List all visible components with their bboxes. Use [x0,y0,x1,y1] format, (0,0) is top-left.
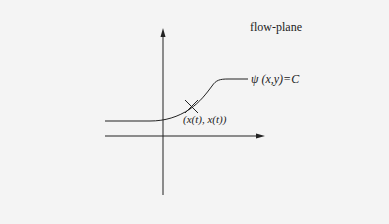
flow-plane-diagram [0,0,389,224]
vertical-axis-arrow-icon [161,28,166,37]
point-marker-icon [185,100,198,113]
point-label: (x(t), x(t)) [183,114,226,125]
streamline-curve [105,79,248,121]
curve-label: ψ (x,y)=C [251,73,299,85]
horizontal-axis-arrow-icon [256,134,265,139]
diagram-canvas: flow-plane ψ (x,y)=C (x(t), x(t)) [0,0,389,224]
diagram-title: flow-plane [250,21,302,33]
